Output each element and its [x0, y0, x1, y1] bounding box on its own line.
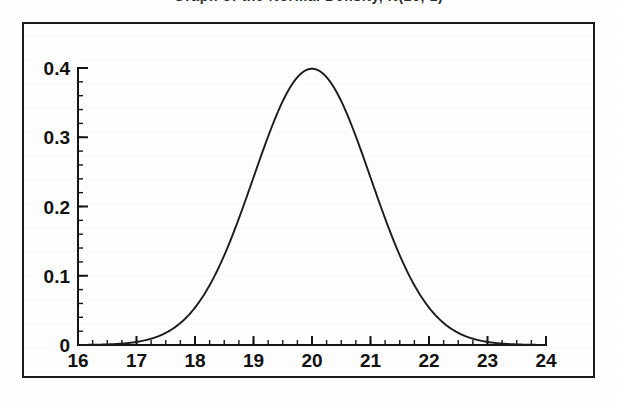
y-axis-tick-label: 0.1 — [44, 266, 71, 287]
figure-title-strip: Graph of the Normal Density, N(20, 1) — [0, 0, 617, 4]
x-axis-tick-label: 20 — [301, 350, 322, 371]
normal-distribution-chart: 16171819202122232400.10.20.30.4 — [22, 22, 595, 378]
x-axis-tick-label: 22 — [418, 350, 439, 371]
x-axis-tick-label: 18 — [184, 350, 205, 371]
x-axis-tick-label: 17 — [126, 350, 147, 371]
y-axis-tick-label: 0.4 — [44, 58, 71, 79]
x-axis-tick-label: 24 — [535, 350, 557, 371]
y-axis-tick-label: 0.2 — [44, 197, 70, 218]
x-axis-tick-label: 21 — [360, 350, 382, 371]
page-title: Graph of the Normal Density, N(20, 1) — [0, 0, 617, 4]
y-axis-tick-label: 0.3 — [44, 127, 70, 148]
x-axis-tick-label: 23 — [477, 350, 498, 371]
y-axis-tick-label: 0 — [59, 335, 70, 356]
x-axis-tick-label: 16 — [67, 350, 88, 371]
normal-density-curve — [78, 69, 546, 345]
x-axis-tick-label: 19 — [243, 350, 264, 371]
chart-render-group: 16171819202122232400.10.20.30.4 — [44, 58, 557, 371]
